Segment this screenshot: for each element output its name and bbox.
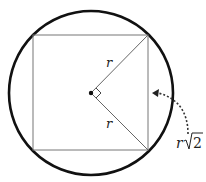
radius-lower (91, 93, 148, 150)
right-angle-marker (96, 88, 101, 98)
side-length-label: r 2 (176, 133, 203, 151)
inscribed-square-diagram: r r r 2 (0, 0, 206, 182)
side-length-radicand: 2 (193, 135, 202, 151)
radius-lower-label: r (106, 116, 113, 131)
center-point (89, 91, 93, 95)
radius-upper-label: r (106, 55, 113, 70)
arrowhead-icon (152, 89, 159, 97)
side-length-variable: r (176, 135, 184, 151)
radius-upper (91, 35, 148, 93)
